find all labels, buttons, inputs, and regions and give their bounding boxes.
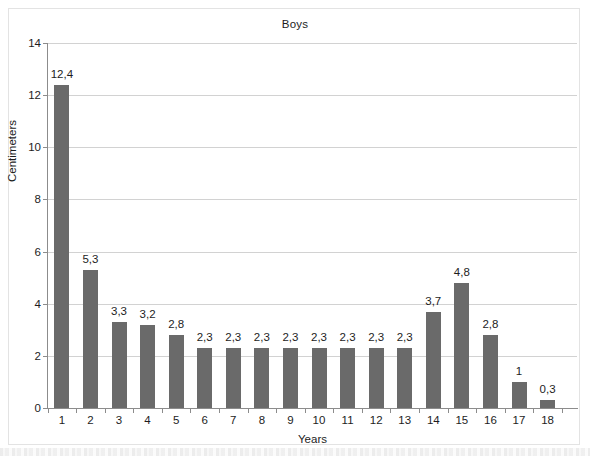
y-axis-tick-label: 14 (11, 37, 41, 49)
bar-value-label: 2,3 (368, 331, 384, 343)
x-axis-tick-mark (105, 409, 106, 413)
x-axis-tick-label: 13 (398, 414, 411, 426)
bar-value-label: 3,3 (111, 305, 127, 317)
y-axis-tick-mark (43, 408, 47, 409)
x-axis-tick-label: 4 (144, 414, 150, 426)
x-axis-tick-mark (219, 409, 220, 413)
chart-screenshot: Boys Centimeters Years 0246810121412,415… (0, 0, 590, 461)
y-axis-line (47, 43, 48, 409)
bar (454, 283, 469, 408)
x-axis-tick-mark (48, 409, 49, 413)
bar-value-label: 3,7 (425, 295, 441, 307)
y-axis-tick-label: 6 (11, 246, 41, 258)
bar (512, 382, 527, 408)
x-axis-tick-mark (248, 409, 249, 413)
bar-value-label: 2,3 (282, 331, 298, 343)
x-axis-tick-mark (333, 409, 334, 413)
bar (226, 348, 241, 408)
y-axis-tick-label: 2 (11, 350, 41, 362)
bar-value-label: 1 (516, 365, 522, 377)
bar-value-label: 2,3 (254, 331, 270, 343)
x-axis-tick-label: 3 (116, 414, 122, 426)
bar-value-label: 2,3 (340, 331, 356, 343)
bar-value-label: 0,3 (540, 383, 556, 395)
y-axis-tick-mark (43, 95, 47, 96)
bar-value-label: 3,2 (140, 308, 156, 320)
bar-value-label: 2,3 (311, 331, 327, 343)
x-axis-tick-mark (505, 409, 506, 413)
x-axis-tick-mark (133, 409, 134, 413)
y-axis-tick-mark (43, 43, 47, 44)
x-axis-tick-mark (305, 409, 306, 413)
bar (112, 322, 127, 408)
x-axis-tick-label: 1 (59, 414, 65, 426)
bar (369, 348, 384, 408)
y-axis-tick-mark (43, 304, 47, 305)
gridline (47, 147, 577, 148)
scan-noise-strip (0, 448, 590, 456)
x-axis-tick-label: 18 (541, 414, 554, 426)
x-axis-tick-mark (476, 409, 477, 413)
bar (254, 348, 269, 408)
y-axis-tick-mark (43, 356, 47, 357)
bar (397, 348, 412, 408)
bar-value-label: 2,3 (397, 331, 413, 343)
x-axis-tick-mark (76, 409, 77, 413)
bar-value-label: 4,8 (454, 266, 470, 278)
x-axis-tick-label: 15 (455, 414, 468, 426)
bar-value-label: 2,8 (168, 318, 184, 330)
bar (54, 85, 69, 408)
x-axis-tick-label: 5 (173, 414, 179, 426)
bar (83, 270, 98, 408)
bar (283, 348, 298, 408)
y-axis-tick-label: 10 (11, 141, 41, 153)
y-axis-tick-label: 8 (11, 193, 41, 205)
y-axis-tick-label: 0 (11, 402, 41, 414)
bar (169, 335, 184, 408)
x-axis-tick-label: 14 (427, 414, 440, 426)
gridline (47, 252, 577, 253)
gridline (47, 95, 577, 96)
x-axis-tick-label: 9 (287, 414, 293, 426)
y-axis-tick-label: 4 (11, 298, 41, 310)
x-axis-title: Years (47, 433, 578, 445)
x-axis-tick-label: 2 (87, 414, 93, 426)
x-axis-tick-label: 6 (202, 414, 208, 426)
x-axis-tick-mark (533, 409, 534, 413)
x-axis-tick-mark (362, 409, 363, 413)
y-axis-tick-mark (43, 199, 47, 200)
bar-value-label: 2,8 (482, 318, 498, 330)
x-axis-tick-label: 17 (513, 414, 526, 426)
x-axis-tick-label: 7 (230, 414, 236, 426)
bar-value-label: 5,3 (82, 253, 98, 265)
y-axis-tick-label: 12 (11, 89, 41, 101)
bar (426, 312, 441, 408)
bar-value-label: 2,3 (225, 331, 241, 343)
bar (483, 335, 498, 408)
x-axis-line (47, 408, 578, 409)
gridline (47, 43, 577, 44)
x-axis-tick-mark (419, 409, 420, 413)
x-axis-tick-mark (190, 409, 191, 413)
bar (312, 348, 327, 408)
y-axis-tick-mark (43, 252, 47, 253)
gridline (47, 199, 577, 200)
bar (540, 400, 555, 408)
x-axis-tick-label: 8 (259, 414, 265, 426)
bar-value-label: 12,4 (51, 68, 73, 80)
bar (197, 348, 212, 408)
x-axis-tick-mark (390, 409, 391, 413)
x-axis-tick-label: 16 (484, 414, 497, 426)
bar-value-label: 2,3 (197, 331, 213, 343)
x-axis-tick-label: 12 (370, 414, 383, 426)
x-axis-tick-mark (162, 409, 163, 413)
y-axis-tick-mark (43, 147, 47, 148)
x-axis-tick-mark (276, 409, 277, 413)
x-axis-tick-mark (562, 409, 563, 413)
bar (340, 348, 355, 408)
x-axis-tick-label: 11 (342, 414, 354, 426)
x-axis-tick-mark (448, 409, 449, 413)
x-axis-tick-label: 10 (313, 414, 326, 426)
bar (140, 325, 155, 408)
chart-title: Boys (0, 18, 590, 30)
